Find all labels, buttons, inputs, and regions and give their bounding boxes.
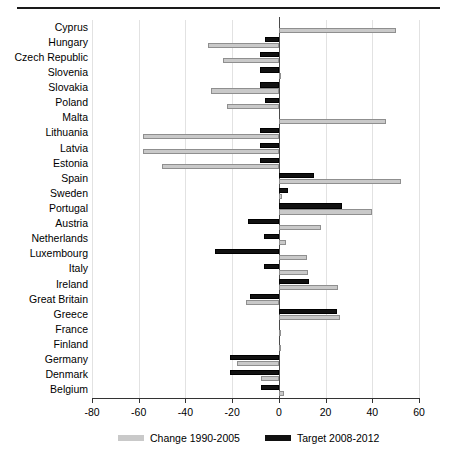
category-label: Portugal <box>0 203 88 214</box>
bar-change <box>279 391 284 396</box>
bar-change <box>279 209 372 214</box>
bar-change <box>279 285 339 290</box>
bar-target <box>250 294 279 299</box>
x-axis-line <box>92 398 419 399</box>
bar-target <box>279 173 314 178</box>
bar-change <box>279 73 281 78</box>
bar-target <box>261 385 279 390</box>
category-label: Great Britain <box>0 294 88 305</box>
category-label: Denmark <box>0 369 88 380</box>
category-label: Italy <box>0 263 88 274</box>
x-tick-label: -80 <box>84 406 99 418</box>
bar-target <box>279 309 337 314</box>
bar-target <box>260 128 279 133</box>
bar-target <box>264 234 279 239</box>
bar-target <box>260 67 279 72</box>
bar-change <box>227 104 278 109</box>
bar-target <box>279 188 288 193</box>
x-tick <box>232 398 233 403</box>
bar-target <box>265 98 279 103</box>
bar-change <box>143 134 278 139</box>
bar-change <box>279 179 402 184</box>
bar-target <box>260 82 279 87</box>
legend-swatch-black <box>265 435 291 441</box>
bar-target <box>260 143 279 148</box>
category-label: Ireland <box>0 279 88 290</box>
bar-change <box>246 300 279 305</box>
bar-change <box>261 376 279 381</box>
plot-area <box>92 20 419 398</box>
legend-item: Change 1990-2005 <box>118 432 240 444</box>
x-tick-label: -60 <box>131 406 146 418</box>
category-label: Belgium <box>0 384 88 395</box>
category-label: Czech Republic <box>0 52 88 63</box>
bar-change <box>279 194 283 199</box>
bar-change <box>279 225 321 230</box>
bar-change <box>237 361 279 366</box>
category-label: Spain <box>0 173 88 184</box>
category-label: Slovakia <box>0 82 88 93</box>
chart-figure: CyprusHungaryCzech RepublicSloveniaSlova… <box>0 0 459 464</box>
bar-target <box>264 264 279 269</box>
category-label: Slovenia <box>0 67 88 78</box>
x-tick-label: -40 <box>178 406 193 418</box>
x-tick-label: 40 <box>366 406 378 418</box>
x-tick <box>419 398 420 403</box>
category-label: Cyprus <box>0 22 88 33</box>
category-label: Latvia <box>0 143 88 154</box>
top-divider-rule <box>17 7 440 9</box>
category-label: Germany <box>0 354 88 365</box>
category-axis-labels: CyprusHungaryCzech RepublicSloveniaSlova… <box>0 20 88 398</box>
x-tick <box>326 398 327 403</box>
category-label: Luxembourg <box>0 248 88 259</box>
bar-target <box>230 355 279 360</box>
x-tick <box>185 398 186 403</box>
bar-change <box>279 315 340 320</box>
x-tick <box>279 398 280 403</box>
bar-target <box>230 370 279 375</box>
bar-target <box>279 279 309 284</box>
bar-change <box>279 119 386 124</box>
category-label: Hungary <box>0 37 88 48</box>
x-tick <box>139 398 140 403</box>
category-label: Poland <box>0 97 88 108</box>
bar-change <box>223 58 279 63</box>
bar-change <box>279 255 307 260</box>
category-label: Malta <box>0 112 88 123</box>
bar-change <box>208 43 279 48</box>
category-label: Austria <box>0 218 88 229</box>
bar-rows <box>92 20 419 398</box>
bar-target <box>265 37 279 42</box>
gridline <box>419 20 420 398</box>
legend-item: Target 2008-2012 <box>265 432 379 444</box>
category-label: Greece <box>0 309 88 320</box>
x-tick-label: -20 <box>225 406 240 418</box>
bar-change <box>143 149 278 154</box>
category-label: Finland <box>0 339 88 350</box>
x-tick-label: 20 <box>320 406 332 418</box>
x-tick-label: 60 <box>413 406 425 418</box>
bar-change <box>279 270 308 275</box>
category-label: Netherlands <box>0 233 88 244</box>
bar-target <box>248 219 278 224</box>
bar-target <box>279 203 342 208</box>
bar-target <box>260 158 279 163</box>
chart-legend: Change 1990-2005Target 2008-2012 <box>0 432 459 452</box>
bar-change <box>211 88 279 93</box>
bar-change <box>279 28 396 33</box>
bar-change <box>279 330 281 335</box>
category-label: Estonia <box>0 158 88 169</box>
category-label: Lithuania <box>0 127 88 138</box>
bar-change <box>279 240 286 245</box>
legend-label: Target 2008-2012 <box>297 432 379 444</box>
category-label: France <box>0 324 88 335</box>
category-label: Sweden <box>0 188 88 199</box>
bar-change <box>162 164 279 169</box>
x-tick-label: 0 <box>276 406 282 418</box>
legend-label: Change 1990-2005 <box>150 432 240 444</box>
bar-change <box>279 345 281 350</box>
x-tick <box>92 398 93 403</box>
legend-swatch-gray <box>118 435 144 441</box>
x-tick <box>372 398 373 403</box>
bar-target <box>215 249 279 254</box>
